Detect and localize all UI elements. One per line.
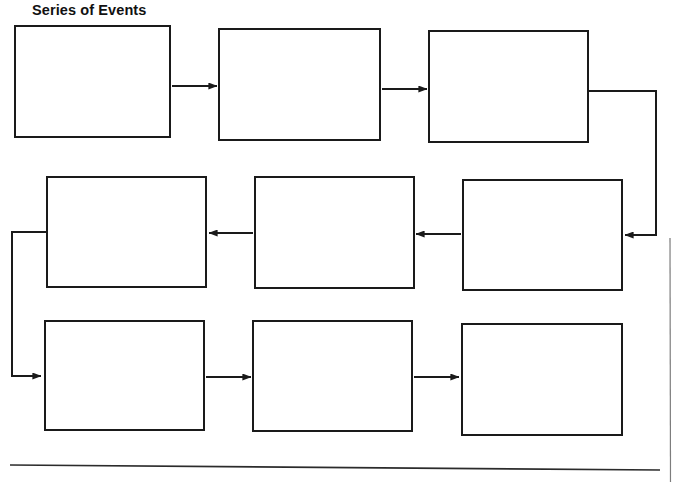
- right-margin-rule: [670, 238, 671, 482]
- event-box-6[interactable]: [46, 176, 207, 288]
- event-box-3[interactable]: [428, 30, 589, 143]
- event-box-2-text[interactable]: [220, 30, 379, 139]
- page-title: Series of Events: [32, 1, 146, 19]
- event-box-1[interactable]: [14, 25, 171, 138]
- event-box-2[interactable]: [218, 28, 381, 141]
- event-box-5-text[interactable]: [256, 178, 413, 287]
- arrow-6-to-7: [12, 232, 47, 376]
- event-box-8[interactable]: [252, 320, 413, 432]
- worksheet-page: Series of Events: [0, 0, 678, 482]
- event-box-4-text[interactable]: [464, 181, 621, 289]
- event-box-3-text[interactable]: [430, 32, 587, 141]
- bottom-rule: [10, 465, 660, 470]
- event-box-8-text[interactable]: [254, 322, 411, 430]
- event-box-9[interactable]: [461, 323, 623, 436]
- event-box-1-text[interactable]: [16, 27, 169, 136]
- event-box-7[interactable]: [44, 320, 205, 431]
- event-box-7-text[interactable]: [46, 322, 203, 429]
- event-box-6-text[interactable]: [48, 178, 205, 286]
- event-box-5[interactable]: [254, 176, 415, 289]
- event-box-9-text[interactable]: [463, 325, 621, 434]
- event-box-4[interactable]: [462, 179, 623, 291]
